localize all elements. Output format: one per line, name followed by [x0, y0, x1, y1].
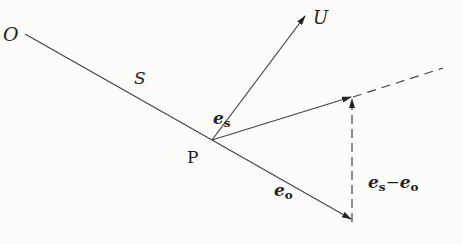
diagram-lines — [0, 0, 462, 244]
label-es-minus-eo: es−eo — [368, 172, 419, 194]
label-path-s: S — [134, 68, 146, 88]
label-eo: eo — [274, 180, 293, 202]
label-origin: O — [3, 23, 19, 45]
dashed-extension — [353, 68, 443, 97]
arrow-es — [212, 97, 351, 140]
label-point-p: P — [187, 147, 198, 167]
label-u: U — [313, 7, 328, 28]
vector-diagram: O S P U es eo es−eo — [0, 0, 462, 244]
line-o-to-p — [25, 34, 212, 140]
label-es: es — [213, 108, 231, 130]
